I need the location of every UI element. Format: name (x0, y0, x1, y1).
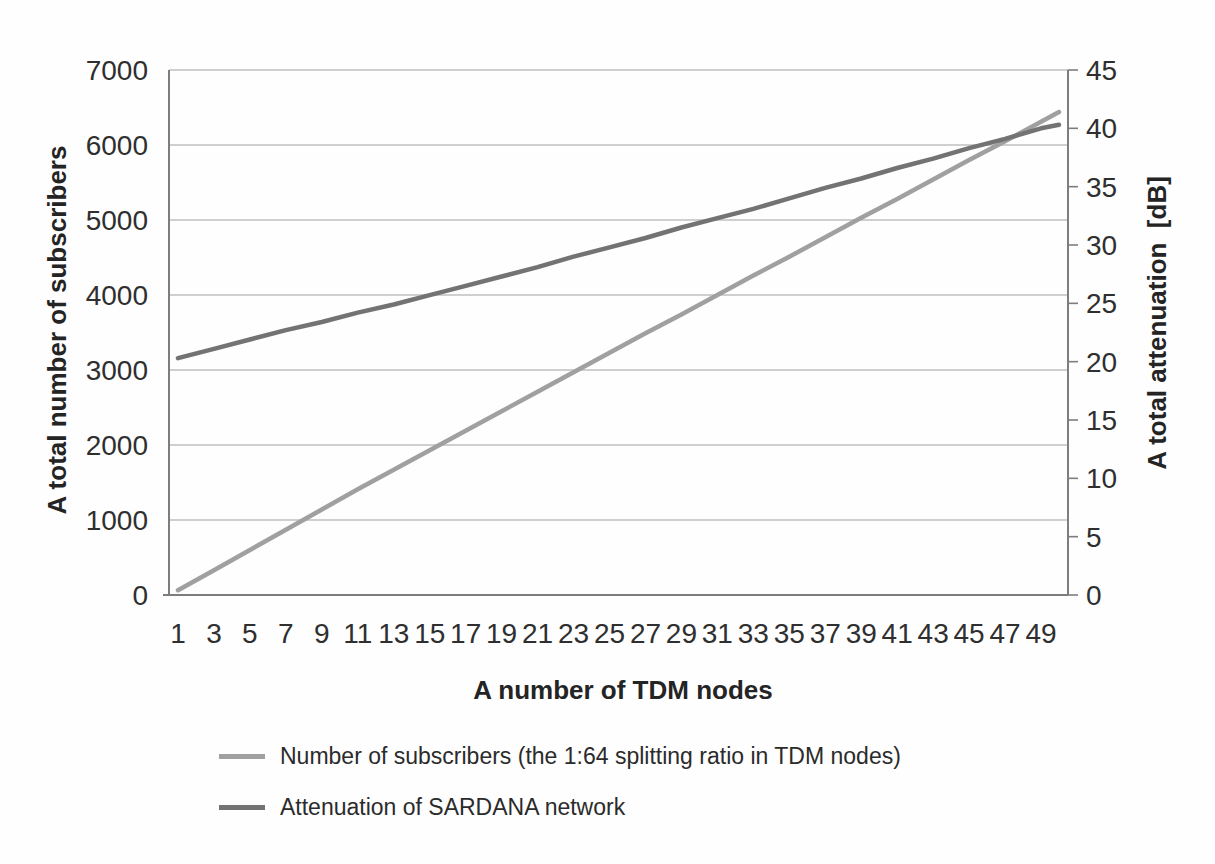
y-right-tick-30: 30 (1086, 230, 1117, 261)
x-tick-27: 27 (630, 618, 661, 649)
legend-line-swatch-attenuation (219, 805, 265, 810)
y-left-tick-1000: 1000 (86, 505, 148, 536)
y-right-tick-35: 35 (1086, 172, 1117, 203)
chart-figure: 0100020003000400050006000700005101520253… (0, 0, 1215, 864)
legend-item-subscribers: Number of subscribers (the 1:64 splittin… (219, 744, 901, 768)
x-tick-35: 35 (774, 618, 805, 649)
y-left-tick-7000: 7000 (86, 55, 148, 86)
x-tick-11: 11 (343, 618, 372, 649)
x-tick-15: 15 (414, 618, 445, 649)
x-tick-39: 39 (846, 618, 877, 649)
x-tick-41: 41 (882, 618, 913, 649)
series-line-0 (178, 112, 1059, 590)
x-tick-13: 13 (378, 618, 409, 649)
y-axis-title-left: A total number of subscribers (42, 146, 73, 515)
x-tick-21: 21 (522, 618, 553, 649)
x-tick-33: 33 (738, 618, 769, 649)
y-left-tick-3000: 3000 (86, 355, 148, 386)
x-tick-19: 19 (486, 618, 517, 649)
x-tick-49: 49 (1025, 618, 1056, 649)
x-axis-title: A number of TDM nodes (473, 675, 772, 706)
series-line-1 (178, 125, 1059, 358)
x-tick-17: 17 (450, 618, 481, 649)
y-left-tick-6000: 6000 (86, 130, 148, 161)
x-tick-47: 47 (989, 618, 1020, 649)
y-right-tick-0: 0 (1086, 580, 1102, 611)
legend-line-swatch-subscribers (219, 754, 265, 759)
x-tick-5: 5 (242, 618, 258, 649)
y-left-tick-0: 0 (132, 580, 148, 611)
x-tick-9: 9 (314, 618, 330, 649)
y-right-tick-45: 45 (1086, 55, 1117, 86)
y-right-tick-20: 20 (1086, 347, 1117, 378)
x-tick-29: 29 (666, 618, 697, 649)
x-tick-45: 45 (954, 618, 985, 649)
legend: Number of subscribers (the 1:64 splittin… (219, 744, 901, 846)
x-tick-25: 25 (594, 618, 625, 649)
y-right-tick-25: 25 (1086, 288, 1117, 319)
x-tick-37: 37 (810, 618, 841, 649)
y-right-tick-10: 10 (1086, 463, 1117, 494)
y-axis-title-right: A total attenuation [dB] (1142, 176, 1173, 470)
y-right-tick-15: 15 (1086, 405, 1117, 436)
y-right-tick-5: 5 (1086, 522, 1102, 553)
y-right-tick-40: 40 (1086, 113, 1117, 144)
legend-label-attenuation: Attenuation of SARDANA network (280, 794, 625, 821)
x-tick-3: 3 (206, 618, 222, 649)
y-left-tick-4000: 4000 (86, 280, 148, 311)
y-left-tick-2000: 2000 (86, 430, 148, 461)
legend-item-attenuation: Attenuation of SARDANA network (219, 795, 901, 819)
x-tick-31: 31 (702, 618, 733, 649)
x-tick-23: 23 (558, 618, 589, 649)
x-tick-1: 1 (170, 618, 186, 649)
legend-label-subscribers: Number of subscribers (the 1:64 splittin… (280, 743, 901, 770)
x-tick-43: 43 (918, 618, 949, 649)
x-tick-7: 7 (278, 618, 294, 649)
chart-plot-area: 0100020003000400050006000700005101520253… (0, 0, 1215, 864)
y-left-tick-5000: 5000 (86, 205, 148, 236)
